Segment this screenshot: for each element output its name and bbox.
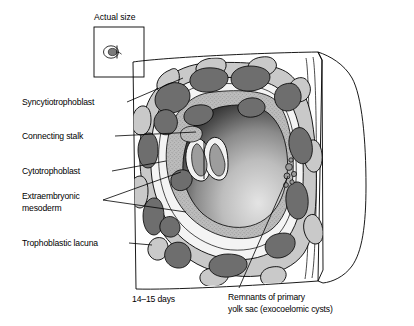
embryology-figure: Actual size xyxy=(0,0,414,326)
exocoelomic-cyst-2 xyxy=(291,171,296,176)
connecting-stalk xyxy=(181,126,203,142)
label-syncytiotrophoblast: Syncytiotrophoblast xyxy=(22,97,95,107)
exocoelomic-cyst-6 xyxy=(289,158,293,162)
implantation-site xyxy=(130,57,323,287)
label-extraembryonic-mesoderm-line2: mesoderm xyxy=(22,203,61,213)
actual-size-label: Actual size xyxy=(94,12,136,22)
label-stage-days: 14–15 days xyxy=(132,294,175,304)
label-extraembryonic-mesoderm-line1: Extraembryonic xyxy=(22,191,80,201)
label-remnants-line2: yolk sac (exocoelomic cysts) xyxy=(228,304,333,314)
exocoelomic-cyst-4 xyxy=(290,180,294,184)
figure-svg: Actual size xyxy=(0,0,414,326)
lacuna-16 xyxy=(160,216,180,237)
label-cytotrophoblast: Cytotrophoblast xyxy=(22,166,81,176)
label-trophoblastic-lacuna: Trophoblastic lacuna xyxy=(22,238,98,248)
lacuna-9 xyxy=(165,242,191,268)
label-remnants-line1: Remnants of primary xyxy=(228,292,306,302)
lacuna-6 xyxy=(286,182,308,219)
lacuna-12 xyxy=(154,110,177,135)
label-connecting-stalk: Connecting stalk xyxy=(22,131,84,141)
lacuna-4 xyxy=(274,83,301,111)
exocoelomic-cyst-1 xyxy=(286,164,293,171)
bilaminar-disc-complex xyxy=(186,137,228,181)
lacuna-14 xyxy=(238,98,265,117)
